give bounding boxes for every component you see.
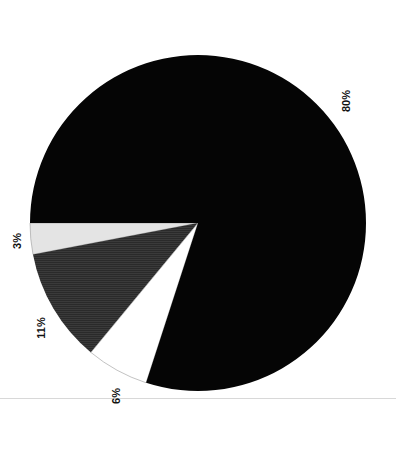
label-3: 3%	[11, 233, 23, 249]
baseline-rule	[0, 398, 396, 399]
pie-chart	[0, 0, 396, 453]
label-11: 11%	[35, 317, 47, 338]
label-80: 80%	[340, 90, 352, 112]
pie-slices	[30, 55, 366, 391]
label-6: 6%	[110, 388, 122, 404]
